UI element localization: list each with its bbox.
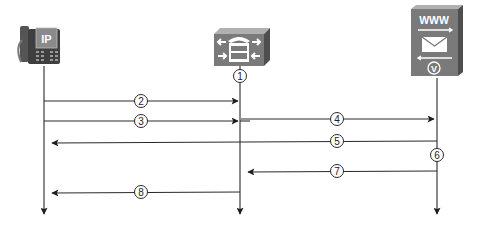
ip-badge: IP xyxy=(41,33,51,45)
step-label-7: 7 xyxy=(331,165,344,178)
svg-text:6: 6 xyxy=(434,150,440,161)
call-manager-icon xyxy=(214,28,270,66)
svg-text:5: 5 xyxy=(334,136,340,147)
step-label-4: 4 xyxy=(331,113,344,126)
step-label-3: 3 xyxy=(135,115,148,128)
sequence-diagram: IP WWW xyxy=(0,0,480,228)
step-label-6: 6 xyxy=(431,149,444,162)
voicemail-server-icon: WWW V xyxy=(411,5,463,76)
v-badge: V xyxy=(431,64,437,74)
www-badge: WWW xyxy=(419,14,449,26)
step-label-8: 8 xyxy=(135,186,148,199)
svg-text:3: 3 xyxy=(138,116,144,127)
message-5 xyxy=(52,141,437,143)
svg-text:7: 7 xyxy=(334,166,340,177)
ip-phone-icon: IP xyxy=(18,26,60,64)
step-label-5: 5 xyxy=(331,135,344,148)
step-label-2: 2 xyxy=(135,95,148,108)
svg-text:1: 1 xyxy=(237,71,243,82)
svg-text:2: 2 xyxy=(138,96,144,107)
step-label-1: 1 xyxy=(234,70,247,83)
svg-text:8: 8 xyxy=(138,187,144,198)
svg-text:4: 4 xyxy=(334,114,340,125)
